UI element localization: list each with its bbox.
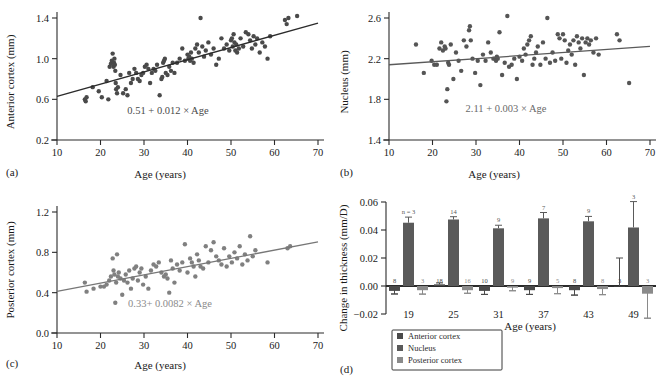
- data-point: [195, 42, 199, 46]
- data-point: [451, 77, 455, 81]
- regression-line: [57, 23, 318, 96]
- data-point: [235, 50, 239, 54]
- data-point: [545, 16, 549, 20]
- x-tick-label: 70: [313, 147, 324, 158]
- data-point: [478, 83, 482, 87]
- data-point: [224, 42, 228, 46]
- regression-line: [389, 46, 650, 64]
- data-point: [154, 264, 158, 268]
- legend-swatch: [397, 357, 403, 363]
- x-tick-label: 10: [52, 147, 63, 158]
- legend-swatch: [397, 333, 403, 339]
- data-point: [191, 61, 195, 65]
- data-point: [200, 44, 204, 48]
- n-label: 18: [436, 277, 443, 284]
- data-point: [185, 270, 189, 274]
- data-point: [576, 40, 580, 44]
- panel-c-letter: (c): [6, 357, 19, 370]
- data-point: [439, 40, 443, 44]
- data-point: [155, 63, 159, 67]
- n-label: 10: [481, 277, 488, 284]
- data-point: [541, 40, 545, 44]
- x-tick-label: 20: [95, 340, 106, 351]
- data-point: [129, 81, 133, 85]
- data-point: [83, 280, 87, 284]
- data-point: [125, 93, 129, 97]
- data-point: [500, 73, 504, 77]
- x-tick-label: 20: [427, 147, 438, 158]
- data-point: [627, 81, 631, 85]
- data-point: [116, 85, 120, 89]
- data-point: [265, 260, 269, 264]
- legend-label: Posterior cortex: [408, 355, 463, 365]
- x-tick-label: 10: [52, 340, 63, 351]
- x-tick-label: 40: [182, 340, 193, 351]
- x-group-label: 19: [403, 309, 414, 320]
- regression-line: [57, 242, 318, 292]
- data-point: [198, 16, 202, 20]
- panel-a-ylabel: Anterior cortex (mm): [4, 34, 17, 129]
- data-point: [578, 46, 582, 50]
- data-point: [112, 56, 116, 60]
- data-point: [230, 36, 234, 40]
- data-point: [113, 63, 117, 67]
- data-point: [214, 254, 218, 258]
- data-point: [238, 36, 242, 40]
- x-tick-label: 50: [226, 147, 237, 158]
- n-label: 7: [542, 204, 546, 211]
- data-point: [573, 63, 577, 67]
- panel-b-letter: (b): [340, 166, 353, 179]
- data-point: [100, 95, 104, 99]
- data-point: [467, 28, 471, 32]
- data-point: [149, 268, 153, 272]
- data-point: [462, 38, 466, 42]
- data-point: [97, 89, 101, 93]
- data-point: [217, 56, 221, 60]
- data-point: [497, 30, 501, 34]
- data-point: [206, 40, 210, 44]
- data-point: [265, 56, 269, 60]
- data-point: [183, 242, 187, 246]
- bar: [403, 223, 414, 286]
- data-point: [201, 266, 205, 270]
- data-point: [561, 32, 565, 36]
- data-point: [556, 32, 560, 36]
- y-tick-label: 0.04: [360, 225, 379, 236]
- data-point: [587, 42, 591, 46]
- data-point: [115, 91, 119, 95]
- data-point: [422, 71, 426, 75]
- data-point: [522, 46, 526, 50]
- x-tick-label: 50: [226, 340, 237, 351]
- data-point: [219, 262, 223, 266]
- data-point: [130, 77, 134, 81]
- data-point: [137, 270, 141, 274]
- data-point: [84, 289, 88, 293]
- data-point: [188, 256, 192, 260]
- data-point: [106, 97, 110, 101]
- data-point: [538, 63, 542, 67]
- data-point: [548, 61, 552, 65]
- y-tick-label: 1.0: [36, 54, 49, 65]
- data-point: [258, 50, 262, 54]
- x-group-label: 25: [448, 309, 459, 320]
- data-point: [211, 240, 215, 244]
- data-point: [245, 258, 249, 262]
- data-point: [157, 93, 161, 97]
- data-point: [214, 63, 218, 67]
- data-point: [564, 61, 568, 65]
- data-point: [84, 95, 88, 99]
- data-point: [253, 42, 257, 46]
- data-point: [582, 73, 586, 77]
- data-point: [464, 44, 468, 48]
- data-point: [222, 246, 226, 250]
- data-point: [125, 280, 129, 284]
- y-tick-label: 0.02: [360, 253, 378, 264]
- n-label: 3: [421, 277, 424, 284]
- data-point: [189, 50, 193, 54]
- data-point: [110, 256, 114, 260]
- data-point: [134, 264, 138, 268]
- x-tick-label: 60: [601, 147, 612, 158]
- data-point: [148, 81, 152, 85]
- data-point: [193, 46, 197, 50]
- x-tick-label: 30: [471, 147, 482, 158]
